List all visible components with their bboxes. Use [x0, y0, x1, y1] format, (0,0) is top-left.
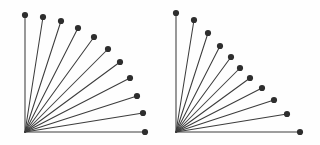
spoke-endpoint-dot: [117, 59, 123, 65]
spoke-endpoint-dot: [127, 75, 133, 81]
spoke-endpoint-dot: [173, 10, 179, 16]
spoke-endpoint-dot: [191, 17, 197, 23]
spoke-endpoint-dot: [284, 111, 290, 117]
spoke-endpoint-dot: [91, 34, 97, 40]
spoke-endpoint-dot: [217, 43, 223, 49]
spoke-endpoint-dot: [205, 30, 211, 36]
fan-diagram-figure: [0, 0, 320, 145]
spoke-endpoint-dot: [134, 93, 140, 99]
spoke-endpoint-dot: [228, 54, 234, 60]
spoke-endpoint-dot: [105, 46, 111, 52]
spoke-endpoint-dot: [75, 25, 81, 31]
figure-background: [0, 0, 320, 145]
spoke-endpoint-dot: [142, 129, 148, 135]
spoke-endpoint-dot: [247, 75, 253, 81]
spoke-endpoint-dot: [40, 14, 46, 20]
spoke-endpoint-dot: [140, 110, 146, 116]
spoke-endpoint-dot: [237, 65, 243, 71]
spoke-endpoint-dot: [271, 97, 277, 103]
spoke-endpoint-dot: [297, 129, 303, 135]
spoke-endpoint-dot: [22, 12, 28, 18]
spoke-endpoint-dot: [58, 18, 64, 24]
spoke-endpoint-dot: [259, 85, 265, 91]
